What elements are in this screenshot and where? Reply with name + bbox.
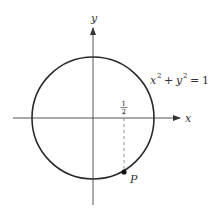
x-axis-label: x [185, 112, 192, 125]
circle-equation: x 2 + y 2 = 1 [150, 72, 209, 87]
svg-text:y: y [175, 74, 183, 87]
point-p-label: P [129, 173, 138, 186]
tick-denominator: 2 [122, 108, 126, 116]
point-p-marker [121, 169, 126, 174]
svg-text:2: 2 [183, 72, 187, 80]
tick-numerator: 1 [122, 100, 126, 108]
svg-text:=: = [190, 74, 199, 87]
svg-text:x: x [150, 74, 157, 87]
y-axis-label: y [90, 12, 98, 25]
unit-circle-diagram: y x P 1 2 x 2 + y 2 = 1 [0, 0, 216, 217]
svg-text:+: + [164, 74, 173, 87]
svg-text:2: 2 [157, 72, 161, 80]
svg-text:1: 1 [202, 74, 209, 87]
